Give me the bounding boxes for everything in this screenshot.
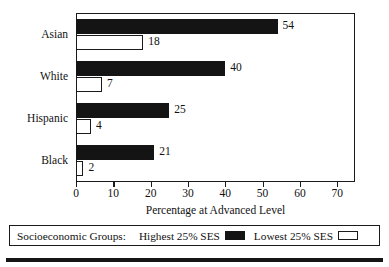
bar-asian-lowest-ses xyxy=(76,35,143,50)
y-axis-label-hispanic: Hispanic xyxy=(0,112,68,124)
legend-label-highest-ses: Highest 25% SES xyxy=(139,230,220,242)
bar-white-lowest-ses xyxy=(76,77,102,92)
x-axis-tick-label-10: 10 xyxy=(108,188,120,200)
plot-area: 54 18 40 7 25 4 21 2 xyxy=(76,14,354,182)
x-axis-tick-labels: 010203040506070 xyxy=(0,188,389,204)
x-axis-tick-label-0: 0 xyxy=(73,188,79,200)
y-axis-category-labels: Asian White Hispanic Black xyxy=(0,0,72,200)
bar-value-asian-highest-ses: 54 xyxy=(283,20,295,32)
bar-group-hispanic: 25 4 xyxy=(76,98,354,140)
y-axis-label-asian: Asian xyxy=(0,28,68,40)
x-axis-tick-label-50: 50 xyxy=(257,188,269,200)
x-axis-tick-label-60: 60 xyxy=(294,188,306,200)
bar-value-hispanic-highest-ses: 25 xyxy=(174,104,186,116)
legend-box: Socioeconomic Groups: Highest 25% SES Lo… xyxy=(9,225,380,246)
bar-black-highest-ses xyxy=(76,145,154,160)
y-axis-label-black: Black xyxy=(0,154,68,166)
bar-value-hispanic-lowest-ses: 4 xyxy=(96,120,102,132)
bar-hispanic-lowest-ses xyxy=(76,119,91,134)
x-axis-tick-label-40: 40 xyxy=(220,188,232,200)
legend-entry-highest-ses: Highest 25% SES xyxy=(139,230,245,242)
bar-value-white-lowest-ses: 7 xyxy=(107,78,113,90)
x-axis-tick-label-70: 70 xyxy=(331,188,343,200)
x-axis-tick-label-20: 20 xyxy=(145,188,157,200)
bar-value-asian-lowest-ses: 18 xyxy=(148,36,160,48)
y-axis-label-white: White xyxy=(0,70,68,82)
bar-asian-highest-ses xyxy=(76,19,278,34)
legend-entry-lowest-ses: Lowest 25% SES xyxy=(254,230,358,242)
bar-group-asian: 54 18 xyxy=(76,14,354,56)
bar-value-white-highest-ses: 40 xyxy=(230,62,242,74)
bottom-divider-rule xyxy=(6,258,383,262)
black-swatch-icon xyxy=(225,231,245,240)
x-axis-tick-label-30: 30 xyxy=(182,188,194,200)
legend-title: Socioeconomic Groups: xyxy=(17,230,126,242)
bar-value-black-lowest-ses: 2 xyxy=(88,162,94,174)
bar-hispanic-highest-ses xyxy=(76,103,169,118)
bar-group-black: 21 2 xyxy=(76,140,354,182)
bar-black-lowest-ses xyxy=(76,161,83,176)
bar-white-highest-ses xyxy=(76,61,225,76)
white-swatch-icon xyxy=(338,231,358,240)
bar-group-white: 40 7 xyxy=(76,56,354,98)
bar-value-black-highest-ses: 21 xyxy=(159,146,171,158)
legend-label-lowest-ses: Lowest 25% SES xyxy=(254,230,333,242)
x-axis-title: Percentage at Advanced Level xyxy=(76,204,355,216)
